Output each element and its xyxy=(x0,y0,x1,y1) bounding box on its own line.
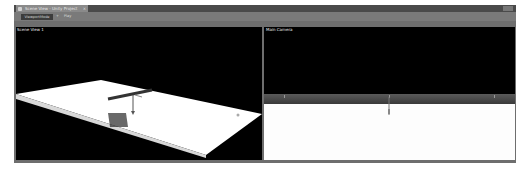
toolbar: ViewportMode + Play xyxy=(14,12,516,21)
viewport-label-right: Main Camera xyxy=(266,27,293,33)
viewport-left[interactable] xyxy=(16,27,262,160)
play-button[interactable]: Play xyxy=(64,14,71,19)
tab-scene-view[interactable]: Scene View - Unity Project × xyxy=(16,5,88,12)
scene-icon xyxy=(18,7,22,11)
close-icon[interactable]: × xyxy=(83,5,86,12)
scene-render xyxy=(16,27,262,160)
tab-label: Scene View - Unity Project xyxy=(25,6,77,11)
add-button[interactable]: + xyxy=(56,14,59,19)
viewport-mode-button[interactable]: ViewportMode xyxy=(21,14,53,20)
viewport-label-left: Scene View 1 xyxy=(17,27,44,33)
editor-window: Scene View - Unity Project × ViewportMod… xyxy=(14,5,516,163)
window-controls[interactable] xyxy=(503,6,513,11)
camera-render xyxy=(264,27,515,160)
tab-bar: Scene View - Unity Project × xyxy=(14,5,516,12)
viewport-right[interactable] xyxy=(264,27,515,160)
